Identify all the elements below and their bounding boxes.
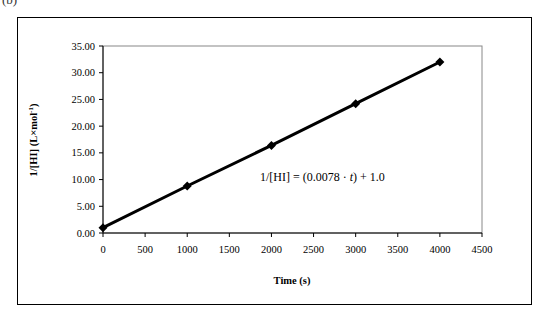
x-tick-label: 500 xyxy=(137,244,153,255)
x-tick-label: 2500 xyxy=(303,244,324,255)
x-axis-label: Time (s) xyxy=(274,275,311,287)
equation-annotation: 1/[HI] = (0.0078 · t) + 1.0 xyxy=(260,170,385,184)
line-chart: 0.005.0010.0015.0020.0025.0030.0035.00 0… xyxy=(0,0,547,326)
x-tick-label: 2000 xyxy=(261,244,282,255)
x-tick-label: 4000 xyxy=(429,244,450,255)
y-tick-label: 35.00 xyxy=(71,41,95,52)
x-tick-label: 0 xyxy=(100,244,105,255)
y-axis-label: 1/[HI] (L×mol-1) xyxy=(27,103,40,176)
y-tick-label: 0.00 xyxy=(77,228,95,239)
x-tick-label: 3500 xyxy=(387,244,408,255)
x-tick-label: 1000 xyxy=(177,244,198,255)
x-axis: 050010001500200025003000350040004500 xyxy=(100,233,492,255)
x-tick-label: 1500 xyxy=(219,244,240,255)
y-axis: 0.005.0010.0015.0020.0025.0030.0035.00 xyxy=(71,41,103,239)
y-tick-label: 15.00 xyxy=(71,147,95,158)
plot-area xyxy=(103,46,482,233)
y-tick-label: 5.00 xyxy=(77,201,95,212)
x-tick-label: 4500 xyxy=(472,244,493,255)
y-tick-label: 20.00 xyxy=(71,121,95,132)
y-tick-label: 10.00 xyxy=(71,174,95,185)
x-tick-label: 3000 xyxy=(345,244,366,255)
y-tick-label: 30.00 xyxy=(71,67,95,78)
y-tick-label: 25.00 xyxy=(71,94,95,105)
data-markers xyxy=(99,58,445,233)
